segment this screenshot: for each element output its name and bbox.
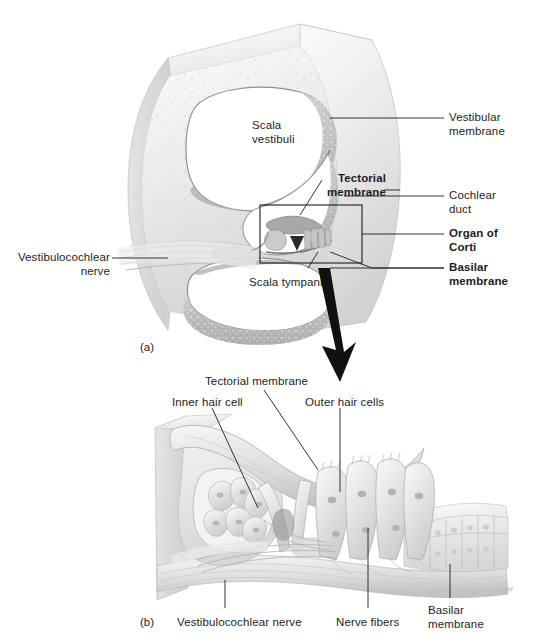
label-outer-hair-cells: Outer hair cells [305, 396, 384, 410]
artist-signature: Lew [498, 584, 514, 593]
label-basilar-membrane-a: Basilar membrane [449, 261, 508, 288]
anatomy-figure: Scala vestibuli Tectorial membrane Vesti… [0, 0, 556, 644]
label-inner-hair-cell: Inner hair cell [172, 396, 243, 410]
label-vestibulocochlear-nerve-a: Vestibulocochlear nerve [12, 251, 110, 278]
label-nerve-fibers: Nerve fibers [336, 616, 399, 630]
label-cochlear-duct: Cochlear duct [449, 189, 496, 216]
panel-label-a: (a) [140, 341, 154, 353]
figure-artwork [0, 0, 556, 644]
label-vestibular-membrane: Vestibular membrane [449, 111, 505, 138]
label-vestibulocochlear-nerve-b: Vestibulocochlear nerve [177, 616, 302, 630]
panel-b-artwork [155, 414, 508, 600]
label-tectorial-membrane-a: Tectorial membrane [320, 172, 386, 199]
label-scala-vestibuli: Scala vestibuli [252, 119, 295, 146]
outer-hair-cells-group [316, 453, 435, 560]
label-basilar-membrane-b: Basilar membrane [428, 604, 484, 631]
label-organ-of-corti-a: Organ of Corti [449, 227, 498, 254]
panel-label-b: (b) [140, 616, 154, 628]
label-scala-tympani: Scala tympani [249, 276, 323, 290]
label-tectorial-membrane-b: Tectorial membrane [205, 375, 308, 389]
